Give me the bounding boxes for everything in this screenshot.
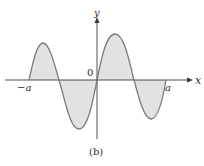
y-axis-label: y <box>93 7 100 18</box>
function-graph-figure: y x 0 −a a (b) <box>0 0 204 166</box>
figure-caption: (b) <box>89 146 103 157</box>
origin-label: 0 <box>87 67 93 78</box>
x-axis-label: x <box>195 74 202 87</box>
left-bound-label: −a <box>17 82 31 93</box>
x-axis-arrow-icon <box>187 78 193 83</box>
right-bound-label: a <box>165 82 171 93</box>
